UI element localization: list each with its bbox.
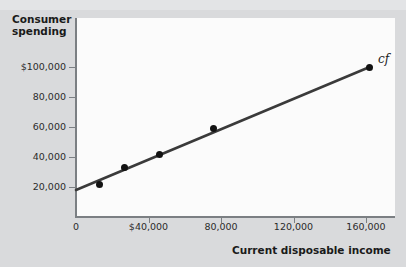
y-axis-tick-label: 20,000	[2, 181, 66, 192]
y-axis-tick	[69, 127, 76, 128]
y-axis-line	[75, 18, 77, 218]
y-axis-title-line2: spending	[12, 25, 71, 37]
y-axis-tick	[69, 67, 76, 68]
y-axis-tick	[69, 97, 76, 98]
x-axis-tick-label: 80,000	[186, 221, 256, 232]
y-axis-title-line1: Consumer	[12, 13, 71, 25]
chart-figure: Consumer spending Current disposable inc…	[0, 0, 406, 267]
x-axis-tick-label: 120,000	[259, 221, 329, 232]
y-axis-tick-label: 40,000	[2, 151, 66, 162]
figure-top-band	[0, 0, 406, 10]
cf-series-label: cf	[378, 52, 389, 66]
y-axis-tick-label: 80,000	[2, 91, 66, 102]
data-point	[366, 64, 373, 71]
x-axis-tick-label: 160,000	[331, 221, 401, 232]
plot-area	[76, 18, 395, 217]
data-point	[96, 181, 103, 188]
x-axis-tick-label: 0	[41, 221, 111, 232]
y-axis-title: Consumer spending	[12, 13, 71, 37]
y-axis-tick	[69, 187, 76, 188]
y-axis-tick-label: $100,000	[2, 61, 66, 72]
x-axis-line	[75, 216, 395, 218]
data-point	[156, 151, 163, 158]
y-axis-tick	[69, 157, 76, 158]
x-axis-title: Current disposable income	[232, 244, 391, 256]
y-axis-tick-label: 60,000	[2, 121, 66, 132]
x-axis-tick-label: $40,000	[114, 221, 184, 232]
